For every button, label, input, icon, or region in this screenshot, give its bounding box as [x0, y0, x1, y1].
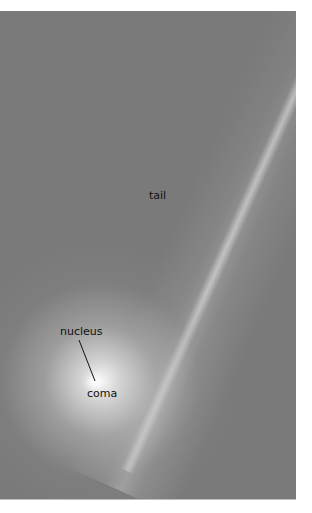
coma-label: coma [87, 388, 117, 399]
nucleus-label: nucleus [60, 326, 103, 337]
nucleus-leader-line [0, 0, 312, 513]
tail-label: tail [149, 190, 166, 201]
